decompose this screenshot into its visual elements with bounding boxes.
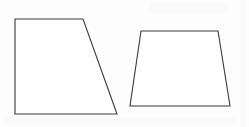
right-trapezoid-shape [130,31,230,106]
figure-container [0,0,249,127]
left-trapezoid-shape [15,19,117,114]
figure-drawing-canvas [0,0,249,127]
